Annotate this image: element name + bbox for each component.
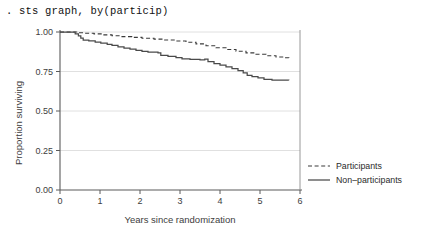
legend-label: Non–participants: [336, 175, 403, 185]
x-tick-label: 1: [97, 196, 102, 206]
x-tick-label: 6: [297, 196, 302, 206]
chart-canvas: 0.000.250.500.751.000123456 Proportion s…: [0, 18, 423, 230]
chart-legend: ParticipantsNon–participants: [308, 161, 403, 185]
y-tick-label: 1.00: [35, 27, 53, 37]
y-tick-label: 0.75: [35, 67, 53, 77]
y-tick-label: 0.50: [35, 106, 53, 116]
y-axis-title: Proportion surviving: [13, 81, 24, 165]
y-tick-label: 0.00: [35, 185, 53, 195]
axis-ticks: [56, 32, 300, 194]
x-tick-label: 0: [57, 196, 62, 206]
x-tick-label: 5: [257, 196, 262, 206]
survival-curve: [60, 32, 289, 80]
x-axis-title: Years since randomization: [124, 214, 235, 225]
series-lines: [60, 32, 289, 80]
survival-curve: [60, 32, 289, 58]
x-tick-label: 3: [177, 196, 182, 206]
grid-lines: [60, 32, 300, 151]
stata-command-line: . sts graph, by(particip): [6, 5, 169, 17]
legend-label: Participants: [336, 161, 383, 171]
x-tick-label: 4: [217, 196, 222, 206]
survival-graph: 0.000.250.500.751.000123456 Proportion s…: [0, 18, 423, 230]
y-tick-label: 0.25: [35, 146, 53, 156]
x-tick-label: 2: [137, 196, 142, 206]
